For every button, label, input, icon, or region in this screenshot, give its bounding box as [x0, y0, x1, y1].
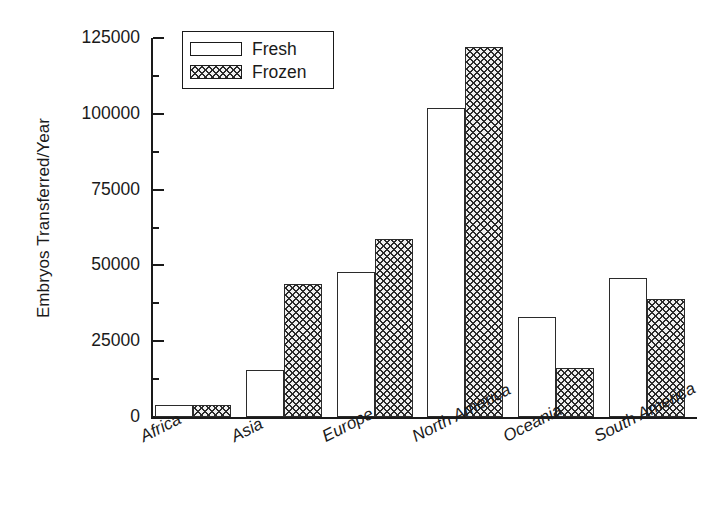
- y-axis-tick-label: 125000: [48, 27, 140, 48]
- legend-label-fresh: Fresh: [252, 40, 297, 58]
- bar-north-america-frozen: [465, 47, 503, 417]
- y-axis-minor-tick: [153, 75, 159, 77]
- y-axis-minor-tick: [153, 378, 159, 380]
- y-axis-major-tick: [153, 264, 164, 266]
- legend-item-frozen: Frozen: [190, 60, 326, 83]
- bar-asia-frozen: [284, 284, 322, 417]
- chart-legend: Fresh Frozen: [182, 31, 334, 89]
- y-axis-major-tick: [153, 113, 164, 115]
- y-axis-minor-tick: [153, 227, 159, 229]
- y-axis-tick-labels: 0250005000075000100000125000: [48, 0, 140, 519]
- y-axis-line: [151, 38, 153, 419]
- y-axis-tick-label: 100000: [48, 103, 140, 124]
- bar-europe-frozen: [375, 239, 413, 417]
- y-axis-major-tick: [153, 37, 164, 39]
- legend-item-fresh: Fresh: [190, 37, 326, 60]
- y-axis-tick-label: 25000: [48, 330, 140, 351]
- legend-swatch-frozen: [190, 65, 242, 79]
- y-axis-major-tick: [153, 189, 164, 191]
- y-axis-tick-label: 0: [48, 406, 140, 427]
- y-axis-minor-tick: [153, 302, 159, 304]
- bar-south-america-fresh: [609, 278, 647, 417]
- bar-europe-fresh: [337, 272, 375, 417]
- y-axis-major-tick: [153, 340, 164, 342]
- bar-north-america-fresh: [427, 108, 465, 417]
- bar-chart-figure: Embryos Transferred/Year 025000500007500…: [0, 0, 722, 519]
- bar-asia-fresh: [246, 370, 284, 417]
- bar-africa-frozen: [193, 405, 231, 417]
- legend-swatch-fresh: [190, 42, 242, 56]
- y-axis-minor-tick: [153, 151, 159, 153]
- y-axis-tick-label: 50000: [48, 254, 140, 275]
- legend-label-frozen: Frozen: [252, 63, 306, 81]
- y-axis-tick-label: 75000: [48, 179, 140, 200]
